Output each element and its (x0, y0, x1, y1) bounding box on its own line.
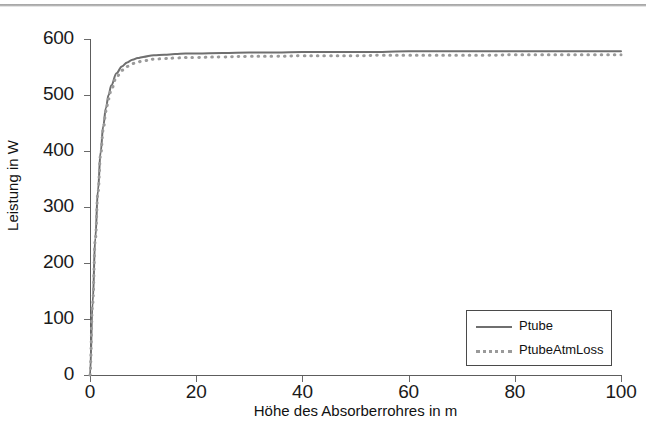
chart-figure: 0100200300400500600 020406080100 Leistun… (0, 0, 646, 431)
legend-entry-ptube: Ptube (467, 315, 613, 339)
legend-label-ptubeatmloss: PtubeAtmLoss (519, 342, 604, 357)
legend-line-sample-solid (476, 326, 512, 331)
chart-curves (0, 0, 646, 431)
chart-legend: Ptube PtubeAtmLoss (466, 310, 612, 366)
legend-line-sample-dotted (476, 350, 512, 356)
legend-entry-ptubeatmloss: PtubeAtmLoss (467, 339, 613, 363)
legend-label-ptube: Ptube (519, 318, 553, 333)
